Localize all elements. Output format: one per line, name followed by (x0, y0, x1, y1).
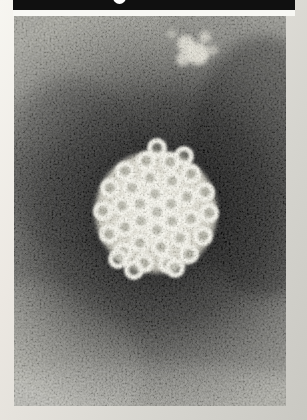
figure-label-marker (113, 0, 126, 4)
em-micrograph-rendering (14, 16, 286, 406)
page-background (0, 0, 307, 420)
film-grain-overlay (14, 16, 286, 406)
figure-top-bar (13, 0, 295, 10)
em-micrograph (14, 16, 286, 406)
